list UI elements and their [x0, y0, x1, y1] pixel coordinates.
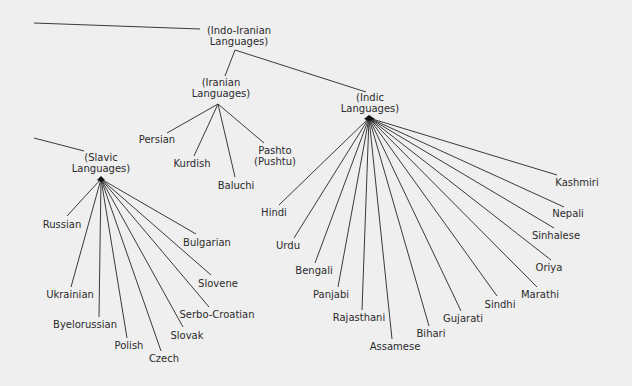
leaf-pashto-line2: (Pushtu) — [254, 156, 296, 167]
leaf-byelorussian: Byelorussian — [53, 319, 117, 330]
edge-indo-iranian-to-iranian — [225, 50, 235, 76]
node-iranian-line1: (Iranian — [192, 77, 250, 88]
edge-iranian-pashto — [218, 104, 264, 143]
language-tree-diagram: (Indo-Iranian Languages) (Iranian Langua… — [0, 0, 632, 386]
leaf-rajasthani: Rajasthani — [333, 312, 385, 323]
node-indic: (Indic Languages) — [341, 92, 399, 114]
node-indic-line1: (Indic — [341, 92, 399, 103]
edge-indic-rajasthani — [362, 118, 369, 310]
leaf-urdu: Urdu — [276, 240, 300, 251]
leaf-bulgarian: Bulgarian — [183, 237, 231, 248]
edge-iranian-persian — [167, 104, 218, 133]
leaf-persian: Persian — [139, 134, 175, 145]
leaf-slovak: Slovak — [170, 330, 203, 341]
edge-slavic-byelorussian — [99, 179, 101, 317]
edge-iranian-baluchi — [218, 104, 235, 177]
leaf-marathi: Marathi — [521, 289, 559, 300]
leaf-czech: Czech — [149, 353, 179, 364]
leaf-kashmiri: Kashmiri — [555, 177, 598, 188]
leaf-panjabi: Panjabi — [313, 289, 349, 300]
leaf-baluchi: Baluchi — [218, 180, 255, 191]
node-indic-line2: Languages) — [341, 103, 399, 114]
node-slavic-line1: (Slavic — [72, 152, 130, 163]
node-iranian: (Iranian Languages) — [192, 77, 250, 99]
node-slavic-line2: Languages) — [72, 163, 130, 174]
node-iranian-line2: Languages) — [192, 88, 250, 99]
edge-indic-bihari — [369, 118, 429, 326]
edge-indic-gujarati — [369, 118, 461, 311]
leaf-pashto: Pashto (Pushtu) — [254, 145, 296, 167]
leaf-pashto-line1: Pashto — [254, 145, 296, 156]
leaf-sinhalese: Sinhalese — [532, 230, 580, 241]
edge-iranian-kurdish — [194, 104, 218, 156]
leaf-sindhi: Sindhi — [485, 299, 516, 310]
leaf-russian: Russian — [43, 219, 82, 230]
edge-parent-to-slavic — [34, 138, 84, 151]
leaf-bihari: Bihari — [417, 328, 446, 339]
edge-parent-to-indo-iranian — [34, 23, 200, 29]
node-indo-iranian-line2: Languages) — [207, 36, 271, 47]
leaf-hindi: Hindi — [261, 207, 287, 218]
node-indo-iranian: (Indo-Iranian Languages) — [207, 25, 271, 47]
edge-indic-sindhi — [369, 118, 497, 296]
leaf-kurdish: Kurdish — [173, 158, 210, 169]
leaf-serbo-croatian: Serbo-Croatian — [179, 309, 254, 320]
leaf-assamese: Assamese — [370, 341, 421, 352]
edge-slavic-bulgarian — [101, 179, 196, 234]
leaf-ukrainian: Ukrainian — [46, 289, 94, 300]
node-indo-iranian-line1: (Indo-Iranian — [207, 25, 271, 36]
leaf-slovene: Slovene — [198, 278, 238, 289]
edge-indo-iranian-to-indic — [235, 50, 366, 92]
edge-indic-assamese — [369, 118, 392, 339]
leaf-oriya: Oriya — [536, 262, 563, 273]
node-slavic: (Slavic Languages) — [72, 152, 130, 174]
leaf-gujarati: Gujarati — [443, 313, 483, 324]
leaf-nepali: Nepali — [552, 208, 584, 219]
leaf-polish: Polish — [115, 340, 144, 351]
leaf-bengali: Bengali — [295, 265, 332, 276]
